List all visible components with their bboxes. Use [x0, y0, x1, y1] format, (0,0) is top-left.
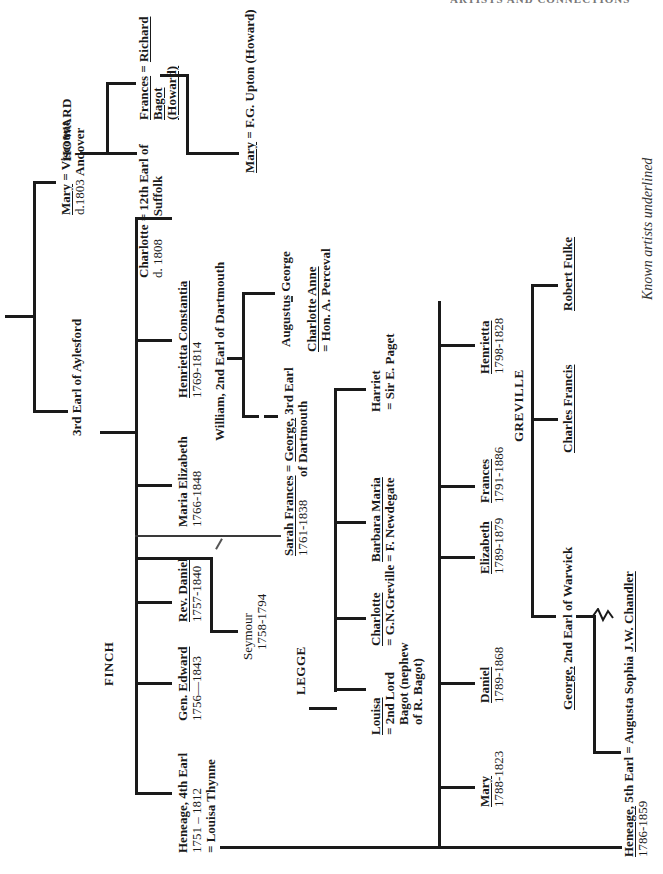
person-louisa-bagot: Louisa = 2nd Lord Bagot (nephew of R. Ba…: [369, 642, 425, 735]
spouse: F.G. Upton (Howard): [242, 9, 257, 128]
spouse-line3: (Howard): [164, 66, 179, 120]
person-william-dartmouth: William, 2nd Earl of Dartmouth: [213, 262, 227, 441]
name: Augustus George: [279, 251, 293, 347]
warwick-children-vertical: [593, 615, 596, 754]
person-augustus-george: Augustus George: [279, 251, 293, 347]
tick-gen-edward: [135, 682, 172, 685]
legge-children-stub: [309, 707, 337, 710]
person-robert-fulke: Robert Fulke: [561, 237, 575, 311]
name: Maria Elizabeth: [176, 436, 190, 527]
spouse-line2: of Dartmouth: [295, 401, 310, 477]
name: Charles Francis: [561, 365, 575, 453]
person-maria-elizabeth: Maria Elizabeth 1766-1848: [176, 436, 204, 527]
andover-children-vertical: [106, 82, 109, 155]
tick-mary-upton: [186, 152, 239, 155]
dates: d. 1808: [150, 239, 165, 278]
tick-heneage-5th: [593, 751, 621, 754]
dates: 1791-1886: [492, 447, 506, 503]
dates: 1789-1879: [492, 518, 506, 574]
name: Seymour: [241, 594, 255, 660]
spouse: = G.N.Greville: [383, 565, 397, 646]
name: Heneage, 4th Earl: [176, 753, 190, 853]
spouse: Viscount: [58, 122, 73, 171]
name: Henrietta Constantia: [176, 281, 190, 398]
person-charlotte-anne: Charlotte Anne = Hon. A. Perceval: [305, 248, 333, 352]
name: Mary: [242, 142, 257, 173]
spouse: 12th Earl of: [136, 144, 151, 210]
person-frances-bagot: Frances = Richard Bagot (Howard): [137, 17, 179, 120]
spouse: = Hon. A. Perceval: [319, 248, 333, 352]
person-gen-edward: Gen. Edward 1756—1843: [176, 647, 204, 721]
person-mary: Mary 1788-1823: [478, 751, 506, 807]
dates: d.1803: [72, 179, 87, 215]
tick-george-3rd-a: [242, 415, 259, 418]
tick-robert-fulke: [531, 284, 558, 287]
tick-charles-francis: [531, 418, 558, 421]
aylesford-children-stub: [100, 431, 137, 434]
legge-children-trunk: [334, 388, 337, 692]
person-heneage-4th-earl: Heneage, 4th Earl 1751 – 1812 = Louisa T…: [176, 753, 218, 853]
tick-maria-elizabeth: [135, 484, 172, 487]
name: 3rd Earl of Aylesford: [70, 319, 84, 436]
dartmouth-vertical: [242, 292, 245, 418]
tick-mary: [438, 786, 475, 789]
dates: 1788-1823: [492, 751, 506, 807]
spouse-line2: Suffolk: [150, 176, 165, 216]
dates: 1761-1838: [295, 500, 310, 556]
person-charlotte-suffolk: Charlotte = 12th Earl of d. 1808 Suffolk: [137, 144, 165, 278]
person-mary-andover: Mary = Viscount d.1803 Andover: [59, 122, 87, 215]
aylesford-vertical: [33, 181, 36, 413]
name: Heneage,: [621, 806, 636, 857]
person-elizabeth: Elizabeth 1789-1879: [478, 518, 506, 574]
name: Henrietta: [478, 318, 492, 374]
equals: =: [136, 211, 151, 225]
tick-frances: [438, 485, 475, 488]
person-sarah-frances: Sarah Frances = George, 3rd Earl 1761-18…: [282, 367, 310, 556]
person-rev-daniel: Rev. Daniel 1757-1840: [176, 558, 204, 622]
name: Edward: [175, 647, 190, 692]
name: Frances: [478, 447, 492, 503]
name: Rev. Daniel: [176, 558, 190, 622]
to-aylesford-line: [33, 410, 68, 413]
root-stub-line: [5, 315, 36, 318]
tick-sarah-frances: [135, 535, 281, 537]
family-label-legge: LEGGE: [294, 646, 308, 695]
person-george-warwick: George, 2nd Earl of Warwick: [561, 547, 575, 710]
name: William, 2nd Earl of Dartmouth: [213, 262, 227, 441]
name: Barbara Maria: [369, 477, 383, 562]
tick-george-3rd-b: [264, 415, 278, 418]
tick-charlotte-greville: [334, 617, 366, 620]
name: Charlotte: [369, 565, 383, 646]
spouse: = F. Newdegate: [383, 477, 397, 562]
equals: =: [242, 128, 257, 142]
dates: 1769-1814: [190, 281, 204, 398]
name: Sarah Frances: [281, 475, 296, 556]
heneage-children-trunk: [438, 301, 441, 849]
tick-george-warwick: [531, 615, 556, 618]
spouse-line2: Bagot: [150, 88, 165, 121]
dates: 1789-1868: [492, 647, 506, 703]
person-seymour: Seymour 1758-1794: [241, 594, 269, 660]
slash-mark: [215, 538, 223, 549]
tick-louisa: [334, 688, 366, 691]
name: Daniel: [478, 647, 492, 703]
person-henrietta: Henrietta 1798-1828: [478, 318, 506, 374]
spouse: Richard: [136, 17, 151, 63]
tick-elizabeth: [438, 556, 475, 559]
name: Louisa: [369, 642, 383, 735]
person-henrietta-constantia: Henrietta Constantia 1769-1814: [176, 281, 204, 398]
tick-seymour: [210, 630, 238, 633]
name: Mary: [58, 184, 73, 215]
person-mary-upton: Mary = F.G. Upton (Howard): [243, 9, 257, 173]
spouse: = Louisa Thynne: [204, 753, 218, 853]
tick-barbara-maria: [334, 521, 366, 524]
note-line3: Bagot (nephew: [397, 642, 411, 735]
person-harriet: Harriet = Sir E. Paget: [369, 334, 397, 413]
family-label-finch: FINCH: [102, 642, 116, 686]
name: Charlotte: [136, 225, 151, 278]
name: George,: [560, 666, 575, 710]
spouse-line2: Andover: [72, 128, 87, 176]
dates: 1758-1794: [255, 594, 269, 660]
dates: 1766-1848: [190, 436, 204, 527]
person-charlotte-greville: Charlotte = G.N.Greville: [369, 565, 397, 646]
